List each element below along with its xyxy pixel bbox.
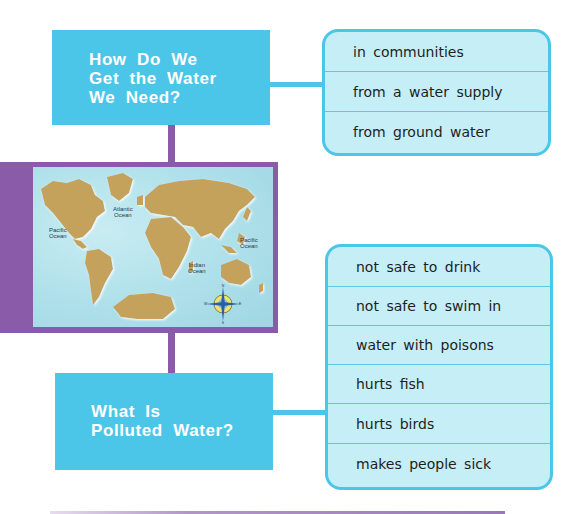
list-item: from a water supply	[325, 72, 548, 112]
label-pacific-ocean-left: PacificOcean	[49, 227, 67, 239]
svg-text:N: N	[222, 284, 225, 288]
question-line: Polluted Water?	[91, 421, 273, 440]
question-line: Get the Water	[89, 69, 270, 88]
world-map: PacificOcean AtlanticOcean IndianOcean P…	[33, 167, 273, 327]
list-item: in communities	[325, 32, 548, 72]
label-pacific-ocean-right: PacificOcean	[240, 237, 258, 249]
svg-text:E: E	[239, 302, 242, 306]
question-line: How Do We	[89, 50, 270, 69]
list-item: hurts fish	[328, 365, 550, 404]
connector-bottom	[273, 410, 328, 415]
list-item: water with poisons	[328, 326, 550, 365]
label-indian-ocean: IndianOcean	[188, 262, 206, 274]
svg-text:S: S	[222, 321, 225, 324]
question-line: We Need?	[89, 88, 270, 107]
list-item: from ground water	[325, 112, 548, 152]
list-item: not safe to swim in	[328, 287, 550, 326]
connector-stem-bottom	[168, 330, 175, 375]
question-box-polluted-water: What Is Polluted Water?	[55, 373, 273, 470]
question-box-get-water: How Do We Get the Water We Need?	[52, 30, 270, 125]
answer-list-polluted-water: not safe to drink not safe to swim in wa…	[325, 244, 553, 490]
connector-stem-top	[168, 125, 175, 165]
connector-top	[270, 82, 325, 87]
label-atlantic-ocean: AtlanticOcean	[113, 206, 133, 218]
list-item: hurts birds	[328, 404, 550, 444]
answer-list-get-water: in communities from a water supply from …	[322, 29, 551, 156]
list-item: makes people sick	[328, 444, 550, 484]
compass-rose-icon: N S W E	[203, 284, 243, 324]
question-line: What Is	[91, 402, 273, 421]
list-item: not safe to drink	[328, 247, 550, 287]
